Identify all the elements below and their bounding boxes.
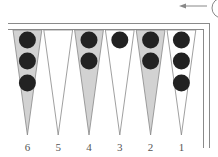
checker [173,75,190,92]
checker [142,32,159,49]
checker [19,75,36,92]
direction-arrow-icon [179,0,218,18]
checker [81,32,98,49]
point-label-3: 3 [112,140,128,154]
checker [142,53,159,70]
point-label-6: 6 [19,140,35,154]
checker [81,53,98,70]
checkers-layer [19,32,190,92]
point-label-4: 4 [81,140,97,154]
point-label-5: 5 [50,140,66,154]
checker [173,53,190,70]
point-label-2: 2 [143,140,159,154]
backgammon-board [0,0,218,157]
checker [173,32,190,49]
checker [19,53,36,70]
checker [111,32,128,49]
point-label-1: 1 [173,140,189,154]
points-layer [13,30,196,135]
point-5 [44,30,73,135]
checker [19,32,36,49]
